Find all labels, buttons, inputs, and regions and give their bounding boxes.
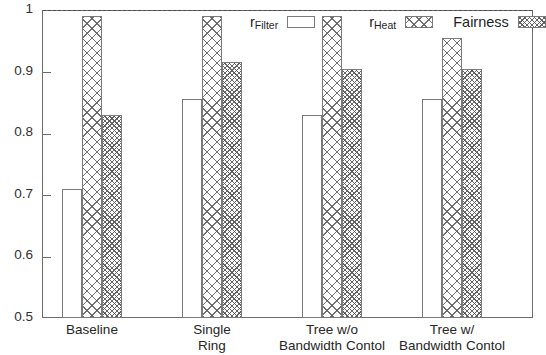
x-axis-category-label: Tree w/Bandwidth Contol [399,322,505,353]
legend-entry-r-heat: rHeat [369,14,433,31]
bar [422,99,442,318]
legend-label: rFilter [250,14,278,31]
x-axis-category-label-line: Ring [193,338,231,354]
bars-layer [42,10,533,318]
x-axis-category-label-line: Bandwidth Contol [279,338,385,354]
x-axis-labels: BaselineSingleRingTree w/oBandwidth Cont… [42,322,533,355]
x-axis-category-label-line: Tree w/ [399,322,505,338]
y-axis-tick-label: 0.6 [0,247,33,262]
y-axis-tick-label: 0.8 [0,124,33,139]
bar [322,16,342,318]
x-axis-category-label-line: Baseline [66,322,118,338]
y-axis-tick-label: 1 [0,1,33,16]
chart-legend: rFilterrHeatFairness [250,14,546,31]
y-axis-tick-label: 0.5 [0,309,33,324]
y-axis-tick-label: 0.7 [0,186,33,201]
x-axis-category-label: Baseline [66,322,118,338]
bar [442,38,462,318]
legend-label-subscript: Filter [255,19,278,31]
bar [102,115,122,318]
legend-entry-r-filter: rFilter [250,14,315,31]
x-axis-category-label-line: Single [193,322,231,338]
bar [82,16,102,318]
bar [202,16,222,318]
bar [462,69,482,318]
legend-entry-fairness: Fairness [453,14,546,30]
bar [302,115,322,318]
legend-label-subscript: Heat [374,19,396,31]
x-axis-category-label: Tree w/oBandwidth Contol [279,322,385,353]
bar [222,62,242,318]
legend-label: rHeat [369,14,396,31]
x-axis-category-label: SingleRing [193,322,231,353]
legend-swatch-dense [518,16,546,28]
bar [62,189,82,318]
bar [342,69,362,318]
bar [182,99,202,318]
y-axis-tick-label: 0.9 [0,63,33,78]
x-axis-category-label-line: Bandwidth Contol [399,338,505,354]
legend-label: Fairness [453,14,509,30]
legend-swatch-open [287,16,315,28]
x-axis-category-label-line: Tree w/o [279,322,385,338]
legend-swatch-cross [405,16,433,28]
